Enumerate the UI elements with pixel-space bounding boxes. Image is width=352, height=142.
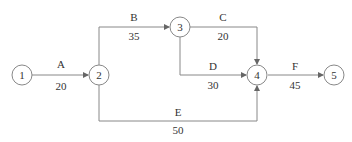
- node-3-label: 3: [177, 21, 183, 33]
- activity-e-name: E: [175, 106, 182, 118]
- node-1-label: 1: [19, 69, 25, 81]
- node-2-label: 2: [96, 69, 102, 81]
- node-5-label: 5: [331, 69, 337, 81]
- network-diagram: [0, 0, 352, 142]
- activity-f-duration: 45: [290, 79, 301, 91]
- activity-a-duration: 20: [56, 80, 67, 92]
- activity-b-name: B: [130, 11, 137, 23]
- node-4-label: 4: [254, 69, 260, 81]
- activity-c-duration: 20: [218, 30, 229, 42]
- activity-b-duration: 35: [129, 30, 140, 42]
- activity-c-name: C: [219, 11, 226, 23]
- activity-a-name: A: [57, 58, 65, 70]
- activity-f-name: F: [292, 60, 298, 72]
- activity-d-name: D: [209, 60, 217, 72]
- activity-e-duration: 50: [173, 124, 184, 136]
- activity-d-duration: 30: [208, 79, 219, 91]
